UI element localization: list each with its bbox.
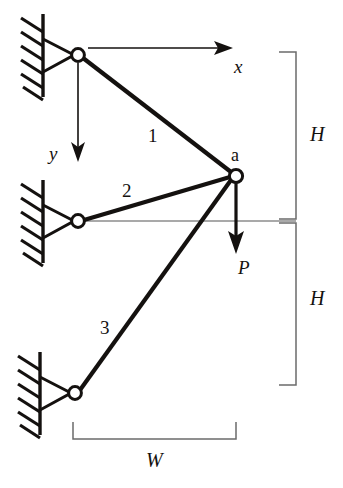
top-support — [21, 14, 84, 100]
bottom-support-hatching — [18, 356, 40, 438]
dimension-label-w: W — [146, 450, 163, 470]
top-support-triangle — [43, 39, 74, 72]
member-1-bar — [83, 58, 231, 172]
middle-support — [21, 180, 84, 266]
middle-support-pin — [72, 215, 85, 228]
middle-support-hatching — [21, 184, 43, 266]
dimension-bracket-w — [73, 422, 236, 439]
dimension-bracket-h-lower — [279, 223, 296, 385]
middle-support-triangle — [43, 205, 74, 238]
truss-diagram-canvas — [0, 0, 343, 488]
y-axis-label: y — [49, 144, 57, 163]
dimension-label-h-lower: H — [310, 288, 324, 308]
x-axis-arrow — [88, 41, 233, 55]
load-label-p: P — [238, 258, 250, 277]
joint-a-pin — [229, 169, 242, 182]
dimension-label-h-upper: H — [310, 124, 324, 144]
member-1-label: 1 — [148, 126, 158, 145]
truss-diagram: 1 2 3 a x y P H H W — [0, 0, 343, 488]
bottom-support-triangle — [40, 377, 71, 410]
joint-a-label: a — [231, 146, 239, 164]
member-3-label: 3 — [100, 318, 110, 337]
dimension-bracket-h-upper — [279, 52, 296, 219]
y-axis-arrow — [71, 63, 85, 162]
x-axis-label: x — [234, 57, 242, 76]
member-3-bar — [80, 180, 231, 390]
load-arrow-p — [228, 183, 244, 254]
bottom-support — [18, 352, 81, 438]
top-support-hatching — [21, 18, 43, 100]
member-2-label: 2 — [122, 181, 132, 200]
